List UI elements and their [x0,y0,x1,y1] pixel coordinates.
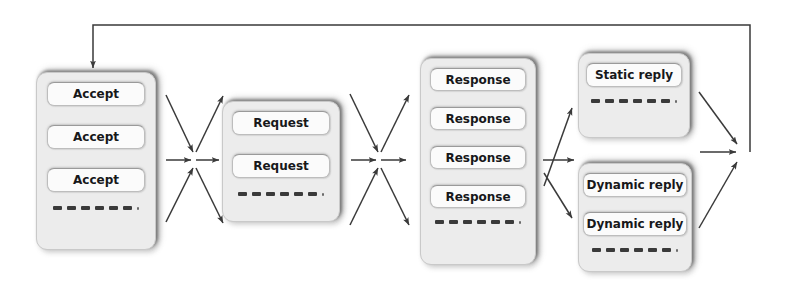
queue-continuation-dashes [238,192,324,196]
dash-segment [591,99,600,103]
dash-segment [308,192,317,196]
diagonal-arrow-up-right [196,96,223,152]
diagonal-arrow-down-right [196,168,223,223]
dash-tail [137,207,139,210]
dash-segment [53,206,62,210]
queue-item[interactable]: Dynamic reply [583,212,687,236]
dash-segment [633,99,642,103]
dash-tail [676,249,678,252]
queue-item[interactable]: Static reply [586,63,682,87]
stage-items: Static reply [579,63,689,103]
queue-continuation-dashes [591,99,677,103]
stage-items: Dynamic replyDynamic reply [579,173,691,252]
dash-segment [662,248,671,252]
diagonal-arrow-up-right [699,162,737,228]
queue-continuation-dashes [592,248,678,252]
queue-item[interactable]: Dynamic reply [583,173,687,197]
dash-segment [238,192,247,196]
dash-segment [477,220,486,224]
dash-segment [634,248,643,252]
dash-segment [463,220,472,224]
queue-item[interactable]: Response [430,68,526,91]
dash-segment [123,206,132,210]
static-reply-queue[interactable]: Static reply [578,53,690,138]
dash-tail [322,193,324,196]
dash-segment [109,206,118,210]
dash-segment [661,99,670,103]
diagonal-arrow-down-right [350,94,378,152]
queue-item[interactable]: Accept [47,82,145,106]
request-queue[interactable]: RequestRequest [222,101,340,222]
diagonal-arrow-up-right [166,168,193,222]
dash-tail [675,100,677,103]
dash-segment [280,192,289,196]
dash-tail [519,221,521,224]
queue-continuation-dashes [435,220,521,224]
diagonal-arrow-up-right [350,168,378,225]
dash-segment [620,248,629,252]
queue-item[interactable]: Response [430,185,526,208]
stage-items: AcceptAcceptAccept [37,82,155,210]
stage-items: RequestRequest [223,111,339,196]
queue-item[interactable]: Accept [47,168,145,192]
dash-segment [294,192,303,196]
queue-item[interactable]: Request [232,154,330,178]
queue-item[interactable]: Accept [47,125,145,149]
dash-segment [605,99,614,103]
dash-segment [648,248,657,252]
dash-segment [606,248,615,252]
diagonal-arrow-down-right [544,173,572,218]
diagonal-arrow-down-right [166,95,193,152]
diagonal-arrow-down-right [699,92,737,144]
dash-segment [647,99,656,103]
queue-item[interactable]: Request [232,111,330,135]
dash-segment [505,220,514,224]
dash-segment [435,220,444,224]
dash-segment [252,192,261,196]
dash-segment [619,99,628,103]
dash-segment [67,206,76,210]
dynamic-reply-queue[interactable]: Dynamic replyDynamic reply [578,163,692,272]
queue-item[interactable]: Response [430,146,526,169]
dash-segment [491,220,500,224]
stage-items: ResponseResponseResponseResponse [421,68,535,224]
dash-segment [449,220,458,224]
dash-segment [592,248,601,252]
queue-continuation-dashes [53,206,139,210]
dash-segment [95,206,104,210]
diagonal-arrow-down-right [381,168,409,225]
dash-segment [266,192,275,196]
diagram-canvas: AcceptAcceptAcceptRequestRequestResponse… [0,0,793,286]
accept-queue[interactable]: AcceptAcceptAccept [36,72,156,250]
diagonal-arrow-up-right [381,95,409,152]
dash-segment [81,206,90,210]
response-queue[interactable]: ResponseResponseResponseResponse [420,58,536,265]
diagonal-arrow-up-right [544,108,572,186]
queue-item[interactable]: Response [430,107,526,130]
